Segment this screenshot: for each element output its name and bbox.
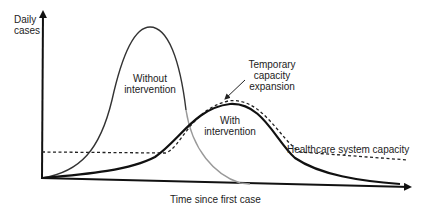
without-label-line1: Without (120, 73, 180, 84)
temp-label-line3: expansion (242, 81, 302, 92)
with-intervention-label: With intervention (200, 115, 260, 137)
capacity-label: Healthcare system capacity (287, 144, 409, 155)
y-axis-label-line2: cases (14, 25, 40, 36)
temp-label-line2: capacity (242, 70, 302, 81)
without-intervention-label: Without intervention (120, 73, 180, 95)
temporary-capacity-label: Temporary capacity expansion (242, 59, 302, 92)
y-axis-label-line1: Daily (14, 14, 40, 25)
y-axis (42, 12, 43, 178)
with-label-line1: With (200, 115, 260, 126)
epidemic-curves-diagram (0, 0, 423, 214)
x-axis-label: Time since first case (170, 194, 261, 205)
temp-label-line1: Temporary (242, 59, 302, 70)
without-intervention-curve (42, 27, 186, 178)
without-label-line2: intervention (120, 84, 180, 95)
with-label-line2: intervention (200, 126, 260, 137)
y-axis-label: Daily cases (14, 14, 40, 36)
